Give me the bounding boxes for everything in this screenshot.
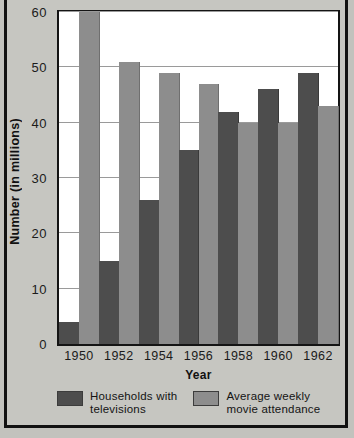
- chart-figure: 0102030405060 Number (in millions) 19501…: [0, 0, 354, 438]
- bars-layer: [59, 12, 338, 344]
- y-axis-tick-label: 20: [32, 226, 47, 241]
- chart-legend: Households with televisionsAverage weekl…: [57, 390, 347, 416]
- y-axis-tick-label: 60: [32, 5, 47, 20]
- bar: [278, 123, 299, 344]
- bar: [59, 322, 80, 344]
- legend-label: Households with televisions: [90, 390, 177, 416]
- y-axis-title: Number (in millions): [8, 118, 22, 245]
- plot-area: [57, 10, 340, 346]
- bar: [79, 12, 100, 344]
- bar: [298, 73, 319, 344]
- bar: [218, 112, 239, 344]
- x-axis-tick-label: 1952: [104, 349, 133, 363]
- bar: [258, 89, 279, 344]
- bar: [119, 62, 140, 344]
- bar: [238, 123, 259, 344]
- legend-swatch-icon: [57, 391, 83, 406]
- y-axis-tick-label: 50: [32, 60, 47, 75]
- bar: [179, 150, 200, 344]
- x-axis-tick-label: 1950: [64, 349, 93, 363]
- y-axis-tick-label: 0: [39, 337, 47, 352]
- legend-label: Average weekly movie attendance: [226, 390, 320, 416]
- bar: [99, 261, 120, 344]
- x-axis-tick-label: 1956: [184, 349, 213, 363]
- x-axis-tick-label: 1960: [263, 349, 292, 363]
- x-axis-tick-label: 1962: [303, 349, 332, 363]
- y-axis-tick-label: 10: [32, 281, 47, 296]
- x-axis-tick-label: 1958: [224, 349, 253, 363]
- bar: [199, 84, 220, 344]
- legend-item[interactable]: Average weekly movie attendance: [193, 390, 320, 416]
- y-axis-tick-label: 40: [32, 115, 47, 130]
- bar: [159, 73, 180, 344]
- y-axis-tick-label: 30: [32, 171, 47, 186]
- x-axis-ticks: 1950195219541956195819601962: [57, 349, 340, 367]
- legend-swatch-icon: [193, 391, 219, 406]
- bar: [139, 200, 160, 344]
- x-axis-tick-label: 1954: [144, 349, 173, 363]
- legend-item[interactable]: Households with televisions: [57, 390, 177, 416]
- bar: [318, 106, 339, 344]
- x-axis-title: Year: [57, 368, 340, 382]
- plot-inner: [59, 12, 338, 344]
